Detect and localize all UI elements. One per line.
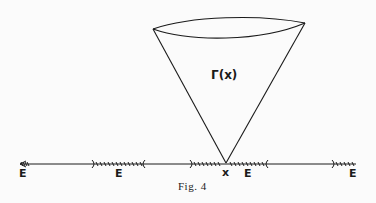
cone	[153, 17, 305, 163]
point-label-x: x	[222, 167, 229, 178]
figure-canvas	[0, 0, 376, 203]
cone-right-edge	[226, 23, 305, 163]
cone-label: Γ(x)	[211, 68, 237, 82]
set-label-E-3: E	[244, 168, 252, 179]
set-label-E-4: E	[349, 168, 357, 179]
set-label-E-2: E	[115, 168, 123, 179]
set-label-E-1: E	[19, 168, 27, 179]
figure-caption: Fig. 4	[178, 180, 207, 192]
cone-top-rim-lower	[153, 23, 305, 38]
cone-left-edge	[153, 29, 226, 163]
cone-top-rim-upper	[153, 17, 305, 29]
